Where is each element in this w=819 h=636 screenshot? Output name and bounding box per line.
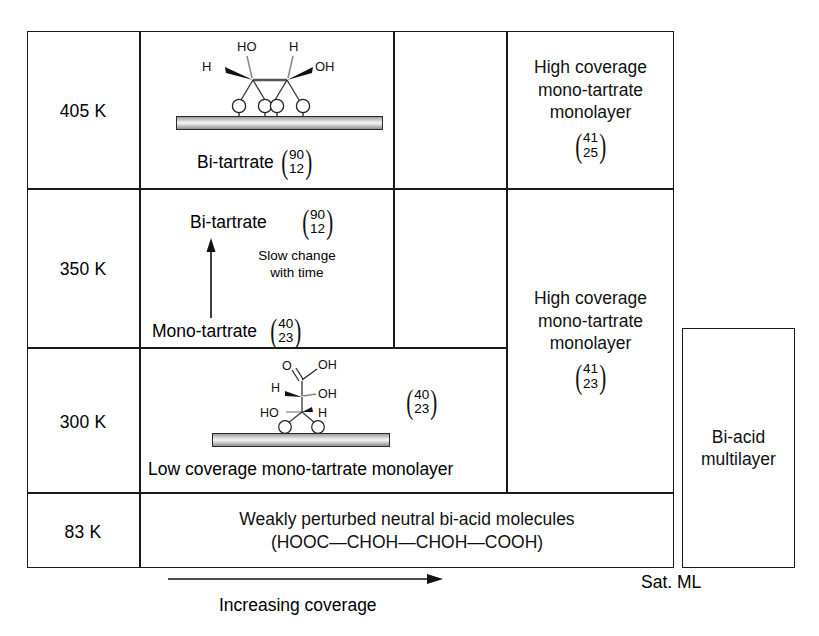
bi-tartrate-matrix: ( 90 12 ) xyxy=(279,145,315,179)
cell-83-span: Weakly perturbed neutral bi-acid molecul… xyxy=(140,493,674,568)
high-coverage-matrix-405: ( 41 25 ) xyxy=(573,129,609,163)
high-coverage-text-405: High coverage mono-tartrate monolayer xyxy=(534,56,647,123)
svg-text:H: H xyxy=(289,39,298,54)
bi-tartrate-product-label: Bi-tartrate ( 90 12 ) xyxy=(190,206,335,240)
reactant-species: Mono-tartrate xyxy=(152,321,257,341)
matrix-bottom: 12 xyxy=(310,222,325,236)
temp-label-83: 83 K xyxy=(27,522,139,543)
paren-left: ( xyxy=(406,385,413,419)
svg-text:O: O xyxy=(282,359,292,373)
paren-left: ( xyxy=(575,129,582,163)
matrix-bottom: 23 xyxy=(278,331,293,345)
paren-right: ) xyxy=(599,360,606,394)
high-coverage-matrix-300: ( 41 23 ) xyxy=(573,360,609,394)
svg-text:HO: HO xyxy=(260,406,279,420)
bi-acid-line1: Weakly perturbed neutral bi-acid molecul… xyxy=(239,508,574,530)
cell-350-spacer xyxy=(394,189,507,348)
product-species: Bi-tartrate xyxy=(190,212,267,232)
svg-text:OH: OH xyxy=(318,358,337,372)
svg-text:H: H xyxy=(271,381,280,395)
increasing-coverage-arrow xyxy=(168,572,443,586)
paren-right: ) xyxy=(431,385,438,419)
mono-tartrate-matrix-300: ( 40 23 ) xyxy=(404,385,440,419)
bi-acid-multilayer-text: Bi-acid multilayer xyxy=(701,426,776,471)
paren-left: ( xyxy=(281,145,288,179)
high-coverage-text-300: High coverage mono-tartrate monolayer xyxy=(534,287,647,354)
svg-text:OH: OH xyxy=(315,59,335,74)
matrix-bottom: 23 xyxy=(414,402,429,416)
temp-label-405: 405 K xyxy=(27,101,139,122)
paren-left: ( xyxy=(302,205,309,239)
temp-label-300: 300 K xyxy=(27,412,139,433)
paren-right: ) xyxy=(294,314,301,348)
product-matrix: ( 90 12 ) xyxy=(300,205,336,239)
slow-change-note: Slow change with time xyxy=(232,248,362,282)
temp-label-350: 350 K xyxy=(27,259,139,280)
svg-text:H: H xyxy=(202,59,211,74)
mono-tartrate-molecule: O OH H OH HO H xyxy=(255,355,380,437)
slow-change-arrow xyxy=(200,238,222,318)
svg-text:HO: HO xyxy=(237,39,257,54)
cell-bi-acid-multilayer: Bi-acid multilayer xyxy=(682,328,795,568)
matrix-bottom: 25 xyxy=(583,146,598,160)
surface-slab-300 xyxy=(212,433,390,447)
svg-text:H: H xyxy=(318,406,327,420)
matrix-top: 90 xyxy=(310,208,325,222)
matrix-top: 40 xyxy=(278,317,293,331)
bi-acid-formula: (HOOC—CHOH—CHOH—COOH) xyxy=(271,531,543,553)
matrix-bottom: 12 xyxy=(289,162,304,176)
matrix-top: 41 xyxy=(583,362,598,376)
increasing-coverage-label: Increasing coverage xyxy=(219,595,377,616)
matrix-bottom: 23 xyxy=(583,377,598,391)
bi-tartrate-molecule: HO H H OH xyxy=(197,34,387,116)
low-coverage-caption: Low coverage mono-tartrate monolayer xyxy=(148,459,453,480)
cell-405-spacer xyxy=(394,31,507,189)
paren-right: ) xyxy=(326,205,333,239)
sat-ml-label: Sat. ML xyxy=(641,572,701,593)
bi-tartrate-caption: Bi-tartrate ( 90 12 ) xyxy=(197,146,314,180)
paren-right: ) xyxy=(599,129,606,163)
paren-left: ( xyxy=(270,314,277,348)
mono-tartrate-reactant-label: Mono-tartrate ( 40 23 ) xyxy=(152,315,304,349)
matrix-top: 90 xyxy=(289,148,304,162)
matrix-top: 40 xyxy=(414,388,429,402)
cell-405-right: High coverage mono-tartrate monolayer ( … xyxy=(507,31,674,189)
cell-right-high-coverage-span: High coverage mono-tartrate monolayer ( … xyxy=(507,189,674,493)
reactant-matrix: ( 40 23 ) xyxy=(268,314,304,348)
matrix-top: 41 xyxy=(583,131,598,145)
paren-right: ) xyxy=(305,145,312,179)
diagram-canvas: 405 K 350 K 300 K 83 K HO H H OH xyxy=(0,0,819,636)
svg-text:OH: OH xyxy=(318,387,337,401)
surface-slab-405 xyxy=(176,116,383,130)
bi-tartrate-label: Bi-tartrate xyxy=(197,152,274,172)
paren-left: ( xyxy=(575,360,582,394)
